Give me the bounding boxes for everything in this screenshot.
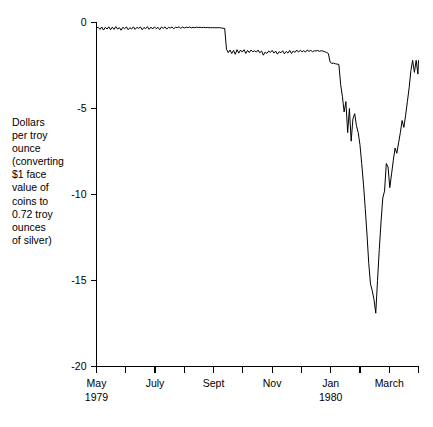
data-series-line xyxy=(97,27,419,314)
y-tick-label: -5 xyxy=(51,102,87,114)
y-tick-label: -20 xyxy=(51,360,87,372)
y-tick-group xyxy=(91,23,97,367)
x-tick-label: Jan xyxy=(301,377,361,389)
x-tick-label: July xyxy=(125,377,185,389)
x-tick-group xyxy=(97,367,419,373)
y-tick-label: 0 xyxy=(51,16,87,28)
chart-figure: Dollars per troy ounce (converting $1 fa… xyxy=(0,0,433,427)
x-tick-year-label: 1979 xyxy=(67,391,127,403)
x-tick-year-label: 1980 xyxy=(301,391,361,403)
x-tick-label: Sept xyxy=(184,377,244,389)
x-tick-label: Nov xyxy=(242,377,302,389)
y-tick-label: -10 xyxy=(51,188,87,200)
x-tick-label: March xyxy=(359,377,419,389)
y-tick-label: -15 xyxy=(51,274,87,286)
x-tick-label: May xyxy=(67,377,127,389)
